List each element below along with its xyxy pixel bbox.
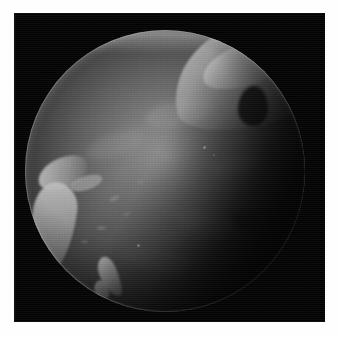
image-plate: [14, 13, 325, 322]
globe-stage: [14, 13, 325, 322]
page-canvas: [0, 0, 338, 338]
earth-globe: [25, 30, 305, 312]
atmospheric-limb-mask: [25, 30, 305, 312]
